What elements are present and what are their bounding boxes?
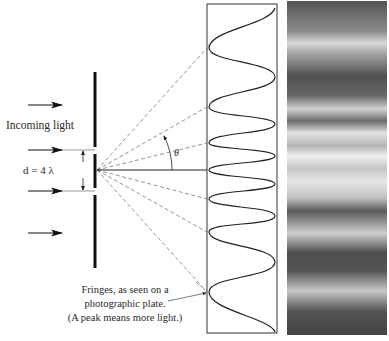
caption-line-1: Fringes, as seen on a — [50, 283, 200, 297]
caption-line-2: photographic plate. — [50, 297, 200, 311]
fringe-caption: Fringes, as seen on a photographic plate… — [50, 283, 200, 325]
photographic-plate — [287, 1, 387, 335]
slit-separation-label: d = 4 λ — [23, 164, 54, 176]
caption-line-3: (A peak means more light.) — [50, 311, 200, 325]
theta-arc — [164, 136, 172, 170]
incoming-light-label: Incoming light — [6, 119, 74, 131]
intensity-curve — [209, 8, 275, 332]
theta-label: θ — [174, 147, 179, 158]
